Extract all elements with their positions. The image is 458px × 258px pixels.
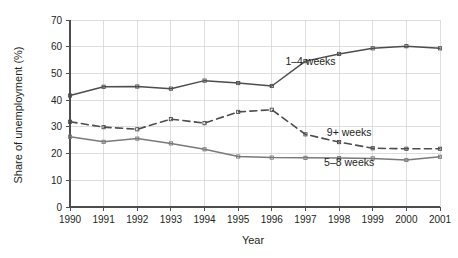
x-tick-label: 2001 bbox=[429, 214, 452, 225]
y-tick-label: 10 bbox=[51, 175, 63, 186]
x-tick-label: 1994 bbox=[193, 214, 216, 225]
x-tick-label: 1999 bbox=[362, 214, 385, 225]
y-tick-label: 60 bbox=[51, 41, 63, 52]
y-tick-label: 70 bbox=[51, 15, 63, 26]
x-tick-label: 2000 bbox=[395, 214, 418, 225]
chart-container: 010203040506070 199019911992199319941995… bbox=[0, 0, 458, 258]
x-tick-label: 1993 bbox=[160, 214, 183, 225]
x-tick-label: 1995 bbox=[227, 214, 250, 225]
y-tick-label: 30 bbox=[51, 121, 63, 132]
unemployment-duration-line-chart: 010203040506070 199019911992199319941995… bbox=[0, 0, 458, 258]
x-tick-label: 1998 bbox=[328, 214, 351, 225]
x-tick-label: 1992 bbox=[126, 214, 149, 225]
y-tick-label: 0 bbox=[56, 202, 62, 213]
x-tick-label: 1996 bbox=[261, 214, 284, 225]
y-tick-label: 40 bbox=[51, 95, 63, 106]
series-label-2: 9+ weeks bbox=[327, 126, 372, 138]
x-axis-title: Year bbox=[242, 234, 265, 246]
y-tick-label: 50 bbox=[51, 68, 63, 79]
x-tick-label: 1997 bbox=[294, 214, 317, 225]
series-label-3: 5–8 weeks bbox=[324, 156, 374, 168]
series-label-1: 1–4 weeks bbox=[285, 55, 335, 67]
x-tick-label: 1991 bbox=[93, 214, 116, 225]
y-axis-title: Share of unemployment (%) bbox=[12, 47, 24, 184]
x-tick-label: 1990 bbox=[59, 214, 82, 225]
y-tick-label: 20 bbox=[51, 148, 63, 159]
